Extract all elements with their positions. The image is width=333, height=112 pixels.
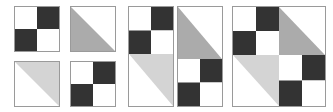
tile-half-square-triangle [279, 7, 325, 55]
half-square-triangle-graphic [129, 54, 173, 106]
panel-unit-bottom-right [70, 61, 116, 107]
half-square-triangle-graphic [178, 7, 222, 59]
cell-bottom-left [279, 81, 302, 107]
half-square-triangle-graphic [233, 55, 279, 106]
cell-top-left [279, 55, 302, 81]
cell-bottom-right [200, 83, 222, 107]
cell-bottom-left [233, 31, 256, 55]
four-patch-graphic [15, 7, 59, 51]
panel-column-right [177, 6, 223, 107]
cell-top-right [302, 55, 325, 81]
tile-four-patch [71, 62, 115, 106]
cell-top-right [200, 59, 222, 83]
panel-unit-bottom-left [14, 61, 60, 107]
cell-top-right [93, 62, 115, 84]
tile-four-patch [15, 7, 59, 51]
four-patch-graphic [233, 7, 279, 55]
cell-top-right [256, 7, 279, 31]
cell-bottom-left [129, 31, 151, 55]
cell-top-left [233, 7, 256, 31]
cell-bottom-left [15, 29, 37, 51]
block-group-separate-units [14, 6, 116, 107]
tile-half-square-triangle [71, 7, 115, 51]
tile-half-square-triangle [178, 7, 222, 59]
panel-column-left [128, 6, 174, 107]
four-patch-graphic [279, 55, 325, 106]
half-square-triangle-graphic [279, 7, 325, 55]
tile-four-patch [129, 7, 173, 54]
four-patch-graphic [178, 59, 222, 106]
cell-bottom-right [302, 81, 325, 107]
block-group-completed-block [232, 6, 326, 107]
tile-half-square-triangle [15, 62, 59, 106]
cell-bottom-right [256, 31, 279, 55]
cell-bottom-left [71, 84, 93, 106]
cell-top-left [178, 59, 200, 83]
tile-four-patch [233, 7, 279, 55]
four-patch-graphic [129, 7, 173, 54]
half-square-triangle-graphic [15, 62, 59, 106]
cell-bottom-right [37, 29, 59, 51]
cell-top-right [37, 7, 59, 29]
block-group-joined-pairs [128, 6, 223, 107]
panel-unit-top-right [70, 6, 116, 52]
panel-finished-block [232, 6, 326, 107]
cell-top-left [15, 7, 37, 29]
tile-four-patch [178, 59, 222, 106]
cell-bottom-right [93, 84, 115, 106]
cell-bottom-left [178, 83, 200, 107]
tile-four-patch [279, 55, 325, 106]
half-square-triangle-graphic [71, 7, 115, 51]
tile-half-square-triangle [129, 54, 173, 106]
tile-half-square-triangle [233, 55, 279, 106]
four-patch-graphic [71, 62, 115, 106]
diagram-canvas [0, 0, 333, 112]
cell-top-left [129, 7, 151, 31]
cell-bottom-right [151, 31, 173, 55]
cell-top-left [71, 62, 93, 84]
panel-unit-top-left [14, 6, 60, 52]
cell-top-right [151, 7, 173, 31]
